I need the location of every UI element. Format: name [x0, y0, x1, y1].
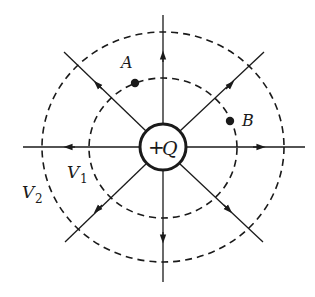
point-a-dot — [131, 79, 139, 87]
field-diagram: + Q A B V 1 V 2 — [0, 0, 315, 297]
charge-label: Q — [162, 137, 178, 159]
field-line-up-left — [64, 52, 146, 131]
v1-label: V — [67, 162, 81, 182]
v2-label: V — [22, 182, 36, 202]
v2-subscript: 2 — [35, 192, 43, 206]
arrow-down-right-icon — [224, 205, 229, 210]
arrow-up-left-icon — [97, 84, 102, 89]
point-b-dot — [226, 117, 234, 125]
point-b-label: B — [241, 111, 254, 130]
v1-subscript: 1 — [80, 172, 88, 186]
point-a-label: A — [119, 53, 133, 72]
field-line-down-right — [180, 164, 263, 242]
